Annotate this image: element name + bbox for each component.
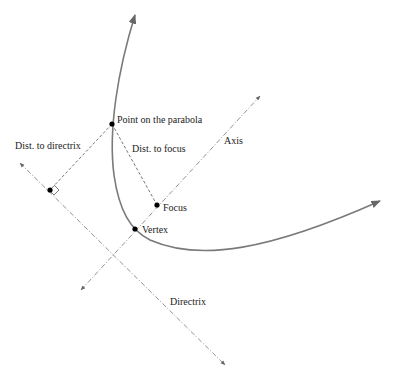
label-focus: Focus: [163, 202, 187, 213]
label-dist-to-focus: Dist. to focus: [132, 143, 186, 154]
label-axis: Axis: [224, 135, 243, 146]
directrix-line: [20, 163, 225, 365]
vertex-dot: [132, 226, 137, 231]
parabola-curve: [112, 15, 380, 251]
label-vertex: Vertex: [142, 224, 168, 235]
label-point-on-parabola: Point on the parabola: [117, 114, 203, 125]
point-on-parabola-dot: [109, 121, 114, 126]
directrix-foot-dot: [47, 187, 52, 192]
parabola-diagram: Point on the parabola Dist. to directrix…: [0, 0, 398, 380]
label-directrix: Directrix: [170, 296, 206, 307]
axis-line: [81, 96, 260, 290]
focus-dot: [154, 202, 159, 207]
dist-to-focus-segment: [112, 124, 157, 205]
dist-to-directrix-segment: [50, 124, 112, 190]
label-dist-to-directrix: Dist. to directrix: [15, 140, 81, 151]
